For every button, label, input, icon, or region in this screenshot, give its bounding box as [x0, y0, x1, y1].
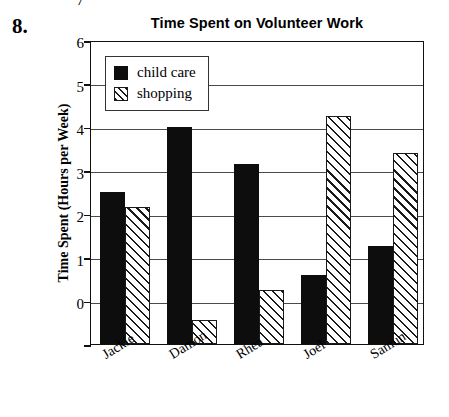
- bar-rhea-shopping: [259, 290, 284, 344]
- bar-rhea-child-care: [234, 164, 259, 344]
- bar-jackie-shopping: [125, 207, 150, 344]
- legend-label-child-care: child care: [137, 65, 196, 80]
- y-axis-tick-labels: 01234567: [58, 0, 84, 417]
- legend: child care shopping: [105, 56, 209, 111]
- bar-samun-child-care: [368, 246, 393, 344]
- question-number: 8.: [12, 16, 28, 37]
- legend-label-shopping: shopping: [137, 86, 192, 101]
- y-tick-label: 1: [62, 254, 84, 269]
- bar-damon-child-care: [167, 127, 192, 344]
- bar-jackie-child-care: [100, 192, 125, 344]
- legend-item-shopping: shopping: [114, 83, 196, 104]
- bar-samun-shopping: [393, 153, 418, 344]
- legend-item-child-care: child care: [114, 62, 196, 83]
- y-tick-label: 5: [62, 80, 84, 95]
- bar-joel-shopping: [326, 116, 351, 344]
- y-tick-mark: [84, 345, 91, 347]
- chart-figure: 8. Time Spent on Volunteer Work Time Spe…: [0, 0, 449, 417]
- legend-swatch-hatch-icon: [114, 87, 128, 101]
- y-tick-label: 3: [62, 167, 84, 182]
- chart-title: Time Spent on Volunteer Work: [90, 16, 424, 32]
- y-tick-label: 4: [62, 123, 84, 138]
- y-tick-label: 7: [62, 0, 84, 8]
- y-tick-label: 6: [62, 36, 84, 51]
- bar-joel-child-care: [301, 275, 326, 344]
- legend-swatch-solid-icon: [114, 66, 128, 80]
- y-tick-label: 0: [62, 297, 84, 312]
- plot-area: child care shopping: [90, 41, 424, 345]
- y-tick-label: 2: [62, 210, 84, 225]
